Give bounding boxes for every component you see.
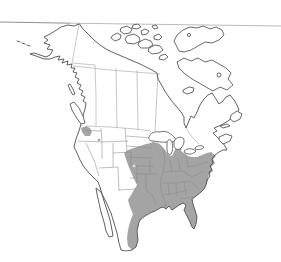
arctic-island — [159, 54, 168, 60]
north-america-map-canvas — [0, 0, 281, 262]
vancouver-island — [70, 102, 85, 124]
baffin-lake-marker — [217, 73, 221, 77]
southampton-island — [183, 87, 194, 94]
top-rule-left-segment — [0, 22, 70, 23]
island-lake-marker — [187, 33, 190, 36]
range-map-figure — [0, 0, 281, 262]
lake-michigan — [167, 140, 173, 155]
arctic-island — [141, 29, 149, 35]
aleutian-islet — [17, 41, 20, 42]
arctic-island — [125, 34, 140, 44]
baffin-island — [177, 58, 233, 91]
arctic-island — [154, 34, 162, 40]
aleutian-islands — [17, 41, 30, 46]
range-small-dot — [98, 139, 101, 142]
arctic-island — [111, 33, 121, 41]
arctic-island — [152, 25, 158, 29]
arctic-island — [132, 24, 141, 29]
nova-scotia — [219, 134, 232, 144]
bottom-fade — [0, 251, 281, 262]
aleutian-islet — [22, 43, 25, 44]
top-rule-right-segment — [70, 23, 281, 26]
range-unshaded-spot-2 — [124, 197, 128, 200]
range-main-east — [124, 142, 216, 250]
devon-ellesmere-island — [174, 26, 224, 52]
aleutian-islet — [27, 45, 30, 46]
top-rule-line — [0, 22, 281, 26]
arctic-island — [120, 26, 132, 34]
haida-gwaii — [68, 84, 75, 95]
